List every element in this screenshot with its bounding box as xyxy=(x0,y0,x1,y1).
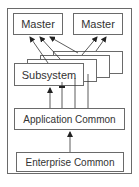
arrow-subsystem3-to-master1 xyxy=(50,37,78,53)
line-cap xyxy=(59,86,65,88)
arrow-subsystem3-to-master2 xyxy=(82,37,97,55)
arrow-subsystem1-to-master1 xyxy=(30,37,48,63)
connector-lines xyxy=(0,0,139,187)
arrow-subsystem4-to-master2 xyxy=(96,37,106,51)
